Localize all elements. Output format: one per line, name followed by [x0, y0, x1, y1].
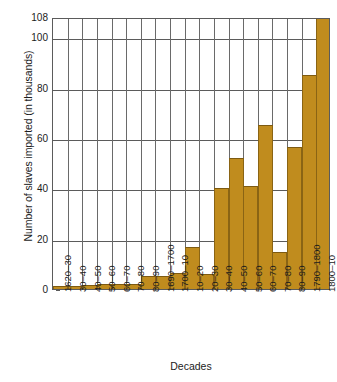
x-tick-label: 60–70: [122, 266, 132, 292]
x-tick-label: 70–80: [136, 266, 146, 292]
x-tick-label: 20–30: [210, 266, 220, 292]
y-tick-label: 80: [14, 84, 48, 94]
x-tick-label: 40–50: [239, 266, 249, 292]
y-tick-label: 0: [14, 285, 48, 295]
x-tick-label: 30–40: [224, 266, 234, 292]
x-tick-label: 10–20: [195, 266, 205, 292]
x-tick-label: 50–60: [254, 266, 264, 292]
x-tick-label: 1800–10: [327, 255, 337, 292]
y-tick-label: 20: [14, 235, 48, 245]
x-tick-label: 1790–1800: [312, 244, 322, 292]
x-tick-label: 80–90: [297, 266, 307, 292]
caption-text: [10, 377, 324, 382]
x-axis-title: Decades: [52, 360, 330, 372]
plot-area: [52, 18, 330, 290]
y-tick-label: 60: [14, 134, 48, 144]
x-tick-label: 40–50: [93, 266, 103, 292]
y-tick-label: 100: [14, 33, 48, 43]
y-tick-label: 40: [14, 184, 48, 194]
x-tick-label: 30–40: [78, 266, 88, 292]
x-axis-tick-labels: 1620–3030–4040–5050–6060–7070–8080–90169…: [52, 292, 330, 354]
x-tick-label: 1690–1700: [166, 244, 176, 292]
bar-series: [53, 19, 329, 289]
x-tick-label: 1700–10: [180, 255, 190, 292]
x-tick-label: 70–80: [283, 266, 293, 292]
y-tick-mark: [56, 290, 60, 291]
x-tick-label: 50–60: [107, 266, 117, 292]
y-axis-tick-labels: 020406080100108: [8, 18, 48, 290]
bar: [258, 125, 273, 289]
y-tick-label: 108: [14, 13, 48, 23]
x-tick-label: 80–90: [151, 266, 161, 292]
x-tick-label: 1620–30: [63, 255, 73, 292]
x-tick-label: 60–70: [268, 266, 278, 292]
